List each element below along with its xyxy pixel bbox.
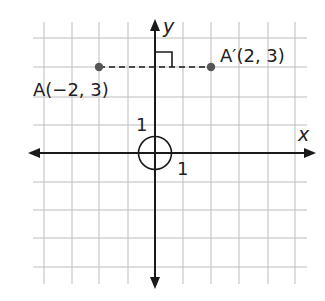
y-axis-down-arrow-icon xyxy=(150,277,160,289)
point-A-prime xyxy=(207,63,215,71)
x-axis-left-arrow-icon xyxy=(28,148,40,158)
x-axis-right-arrow-icon xyxy=(304,148,316,158)
right-angle-marker xyxy=(155,52,172,67)
x-axis-label: x xyxy=(297,123,310,145)
coordinate-plane: y x 1 1 A(−2, 3) A′(2, 3) xyxy=(0,0,325,301)
point-A-prime-label: A′(2, 3) xyxy=(220,45,285,66)
y-unit-label: 1 xyxy=(136,114,147,135)
y-axis-up-arrow-icon xyxy=(150,19,160,31)
point-A xyxy=(95,63,103,71)
y-axis-label: y xyxy=(162,15,175,37)
x-unit-label: 1 xyxy=(177,158,188,179)
point-A-label: A(−2, 3) xyxy=(33,79,109,100)
